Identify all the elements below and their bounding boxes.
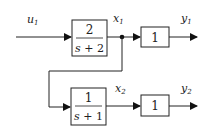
label-x2: x2 (115, 82, 126, 96)
block-g1: 2 s + 2 (72, 20, 107, 56)
block-k1: 1 (141, 27, 169, 47)
svg-text:1: 1 (85, 91, 93, 105)
label-u1: u1 (27, 13, 39, 27)
svg-text:1: 1 (151, 99, 159, 113)
block-g2: 1 s + 1 (71, 88, 106, 125)
label-y1: y1 (180, 12, 192, 26)
block-diagram: u1 2 s + 2 x1 1 y1 1 s + 1 x2 1 y2 (0, 0, 211, 135)
svg-text:s + 2: s + 2 (75, 42, 104, 55)
svg-text:s + 1: s + 1 (74, 110, 103, 123)
block-k2: 1 (141, 95, 169, 116)
label-x1: x1 (113, 12, 124, 26)
label-y2: y2 (180, 82, 192, 96)
svg-text:1: 1 (151, 31, 159, 45)
svg-text:2: 2 (86, 23, 94, 37)
